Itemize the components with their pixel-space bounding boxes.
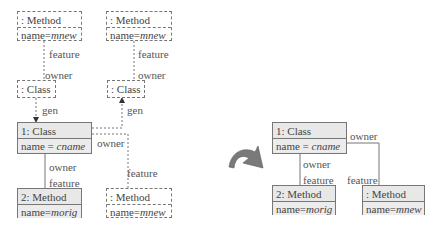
right-method-new: : Method name=mnew: [362, 185, 425, 215]
method-title: : Method: [107, 189, 171, 204]
left-class-1: 1: Class name = cname: [17, 122, 92, 154]
method-attr: name=mnew: [107, 27, 171, 41]
class-title: : Class: [108, 81, 144, 96]
method-attr: name=mnew: [18, 27, 81, 41]
method-attr: name=morig: [18, 204, 81, 218]
method-title: : Method: [363, 186, 424, 201]
method-attr: name=mnew: [107, 204, 171, 218]
label-owner-top: owner: [350, 130, 378, 142]
label-owner-c: owner: [49, 161, 77, 173]
left-method-2: 2: Method name=morig: [17, 188, 82, 218]
method-title: 2: Method: [273, 186, 335, 201]
class-title: : Class: [18, 81, 55, 96]
curved-arrow-icon: [229, 146, 263, 168]
label-feature-b: feature: [138, 48, 169, 60]
label-gen-a: gen: [42, 104, 58, 116]
method-title: : Method: [107, 12, 171, 27]
left-class-b: : Class: [107, 80, 145, 98]
method-title: 2: Method: [18, 189, 81, 204]
label-feature-d: feature: [127, 167, 158, 179]
label-gen-b: gen: [127, 104, 143, 116]
class-title: 1: Class: [18, 123, 91, 138]
right-method-2: 2: Method name=morig: [272, 185, 336, 215]
left-class-a: : Class: [17, 80, 56, 98]
method-attr: name=mnew: [363, 201, 424, 215]
class-attr: name = cname: [273, 138, 346, 152]
label-feature-a: feature: [49, 48, 80, 60]
method-title: : Method: [18, 12, 81, 27]
left-top-method-b: : Method name=mnew: [106, 11, 172, 41]
label-owner-left: owner: [303, 158, 331, 170]
left-top-method-a: : Method name=mnew: [17, 11, 82, 41]
class-title: 1: Class: [273, 123, 346, 138]
left-method-new: : Method name=mnew: [106, 188, 172, 218]
method-attr: name=morig: [273, 201, 335, 215]
class-attr: name = cname: [18, 138, 91, 152]
label-owner-d: owner: [97, 137, 125, 149]
right-class-1: 1: Class name = cname: [272, 122, 347, 154]
